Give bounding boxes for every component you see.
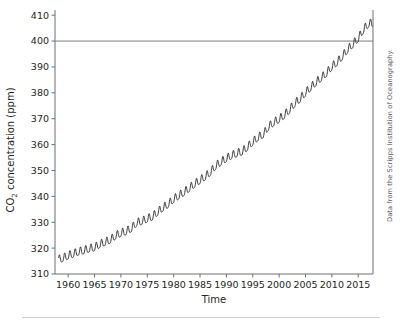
x-tick-label: 2000 [267,279,291,290]
y-axis-title-main: CO [5,198,16,213]
y-tick-label: 400 [31,35,49,46]
chart-canvas: 310320330340350360370380390400410 196019… [0,0,402,331]
x-axis-tick-group: 1960196519701975198019851990199520002005… [56,274,370,290]
co2-data-line [59,19,373,262]
x-tick-label: 1995 [241,279,265,290]
x-axis-title: Time [201,294,226,305]
y-tick-label: 360 [31,139,49,150]
x-tick-label: 1960 [56,279,80,290]
y-tick-label: 390 [31,61,49,72]
x-tick-label: 1980 [162,279,186,290]
x-tick-label: 1975 [135,279,159,290]
y-axis-title: CO2 concentration (ppm) [5,87,19,212]
y-axis-tick-group: 310320330340350360370380390400410 [31,10,55,280]
y-tick-label: 320 [31,243,49,254]
y-tick-label: 340 [31,191,49,202]
x-tick-label: 2005 [293,279,317,290]
y-axis-title-rest: concentration (ppm) [5,87,16,193]
y-tick-label: 380 [31,87,49,98]
x-tick-label: 1970 [109,279,133,290]
y-tick-label: 410 [31,10,49,21]
y-tick-label: 330 [31,217,49,228]
co2-keeling-curve-figure: 310320330340350360370380390400410 196019… [0,0,402,331]
y-tick-label: 310 [31,268,49,279]
y-tick-label: 370 [31,113,49,124]
x-tick-label: 2015 [346,279,370,290]
x-tick-label: 1965 [82,279,106,290]
x-tick-label: 1985 [188,279,212,290]
y-tick-label: 350 [31,165,49,176]
data-source-credit: Data from the Scripps Institution of Oce… [386,49,394,222]
x-tick-label: 1990 [214,279,238,290]
x-tick-label: 2010 [320,279,344,290]
svg-text:CO2 concentration (ppm): CO2 concentration (ppm) [5,87,19,212]
